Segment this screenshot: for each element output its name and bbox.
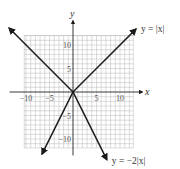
- series-label: y = |x|: [141, 24, 165, 34]
- x-tick-label: 10: [116, 94, 124, 103]
- y-tick-label: −10: [58, 135, 71, 144]
- graph-figure: x y −10−5510105−5−10 y = |x|y = −2|x|: [0, 0, 180, 169]
- y-tick-label: 10: [63, 41, 71, 50]
- x-axis-label: x: [144, 86, 150, 97]
- series-label: y = −2|x|: [112, 156, 146, 166]
- x-tick-label: −5: [45, 94, 54, 103]
- y-axis-label: y: [69, 8, 75, 19]
- y-tick-label: 5: [67, 65, 71, 74]
- x-tick-label: −10: [20, 94, 33, 103]
- y-tick-label: −5: [62, 112, 71, 121]
- x-tick-label: 5: [95, 94, 99, 103]
